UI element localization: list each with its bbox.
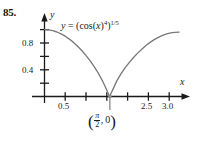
y-tick-label-0-4: 0.4: [22, 65, 33, 75]
cusp-point-marker: [108, 95, 111, 98]
x-axis-arrowhead: [182, 93, 191, 99]
annotation-fraction: π2: [94, 112, 100, 129]
equation-equals: =: [68, 20, 74, 31]
figure-container: 85. y = (cos(x)4)1/5 y: [0, 0, 202, 144]
annotation-comma-zero: , 0: [101, 114, 111, 125]
x-axis-label: x: [180, 76, 184, 87]
annotation-close-paren: ): [110, 112, 116, 131]
equation-open-paren: (cos(: [76, 20, 96, 31]
cusp-point-annotation: (π2, 0): [88, 112, 116, 129]
y-axis-arrowhead: [41, 13, 47, 22]
x-tick-label-2-5: 2.5: [141, 101, 152, 111]
annotation-open-paren: (: [88, 112, 94, 131]
equation-label: y = (cos(x)4)1/5: [61, 20, 119, 31]
x-tick-label-3-0: 3.0: [162, 101, 173, 111]
equation-outer-exponent: 1/5: [110, 19, 118, 26]
curve-cos-power: [45, 30, 180, 97]
x-tick-label-0-5: 0.5: [58, 101, 69, 111]
y-tick-label-0-8: 0.8: [22, 38, 33, 48]
equation-y: y: [61, 20, 65, 31]
y-axis-label: y: [50, 9, 54, 20]
annotation-denominator: 2: [94, 121, 100, 129]
